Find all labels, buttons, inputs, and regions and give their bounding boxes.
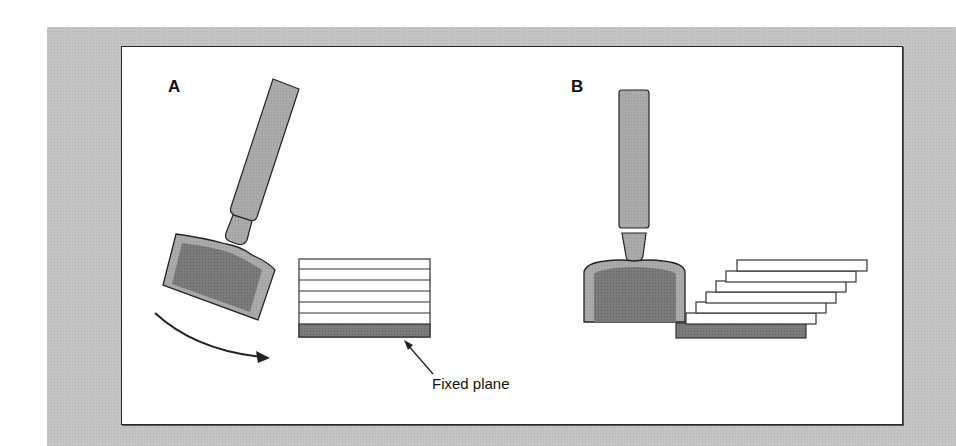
panel-label-b: B [571,77,583,96]
layer-stack-b [676,260,867,338]
fixed-plane-b [676,323,806,338]
tool-neck-a [225,215,252,245]
tool-cap-inner-b [594,267,676,322]
fixed-plane-a [299,324,430,337]
layer-stack-a [299,259,430,337]
fixed-plane-label: Fixed plane [432,375,510,392]
tool-neck-b [622,233,646,263]
tool-head-b [584,90,685,322]
tool-rod-b [619,90,649,228]
diagram-canvas: A Fixed plane B [0,0,956,446]
panel-label-a: A [168,77,180,96]
fixed-plane-pointer [404,340,433,374]
tool-rod-a [230,79,299,221]
rotation-arrow [155,313,270,363]
tool-head-a [163,79,299,320]
